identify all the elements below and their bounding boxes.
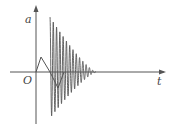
origin-label: O: [23, 75, 32, 86]
damped-oscillation-curve: [50, 17, 96, 116]
y-axis-arrow-icon: [34, 5, 39, 12]
x-axis-arrow-icon: [159, 70, 166, 75]
x-axis-label: t: [157, 76, 161, 87]
y-axis-label: a: [25, 14, 32, 25]
